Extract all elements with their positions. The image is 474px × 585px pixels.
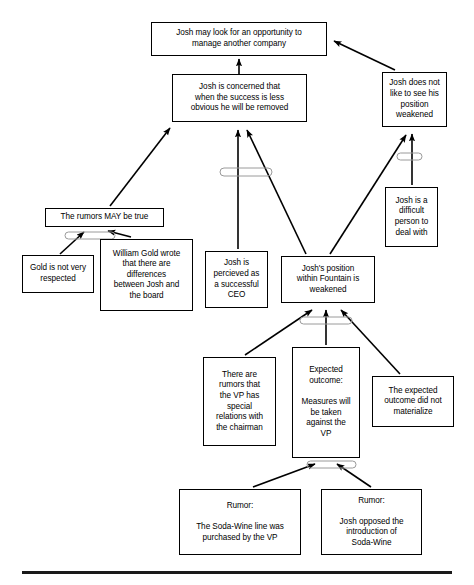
node-text: Rumor: Josh opposed the introduction of … [324,496,419,549]
node-rumor-josh-opposed[interactable]: Rumor: Josh opposed the introduction of … [321,489,422,555]
node-text: There are rumors that the VP has special… [206,370,273,434]
edge-n6-n5 [60,232,84,254]
node-text: The expected outcome did not materialize [375,386,451,418]
node-text: William Gold wrote that there are differ… [103,249,190,302]
and-connector-measures [307,461,356,468]
edge-n13-n11 [253,464,315,487]
node-vp-rumors-chairman[interactable]: There are rumors that the VP has special… [203,357,276,446]
node-text: Rumor: The Soda-Wine line was purchased … [182,501,298,543]
node-josh-does-not-like[interactable]: Josh does not like to see his position w… [382,72,447,127]
edge-n7-n5 [108,231,131,237]
node-gold-not-respected[interactable]: Gold is not very respected [22,255,94,293]
node-expected-outcome-measures[interactable]: Expected outcome: Measures will be taken… [292,347,360,458]
node-josh-may-look[interactable]: Josh may look for an opportunity to mana… [151,22,327,56]
node-text: Josh does not like to see his position w… [385,78,444,120]
and-connector-dislike [397,153,422,160]
and-connector-position [300,317,352,324]
diagram-canvas: Josh may look for an opportunity to mana… [0,0,474,585]
node-william-gold-wrote[interactable]: William Gold wrote that there are differ… [100,239,193,311]
node-josh-percieved-ceo[interactable]: Josh is percieved as a successful CEO [205,251,268,308]
node-text: Josh's position within Fountain is weake… [284,264,372,296]
and-connector-rumors [65,232,115,239]
edge-n9-n2 [247,130,306,254]
node-text: The rumors MAY be true [48,212,161,223]
bottom-divider [22,571,452,574]
node-text: Expected outcome: Measures will be taken… [295,365,357,439]
node-outcome-did-not-materialize[interactable]: The expected outcome did not materialize [372,376,454,427]
node-text: Josh is percieved as a successful CEO [208,258,265,300]
node-text: Josh is a difficult person to deal with [388,196,435,238]
node-rumor-soda-wine-purchase[interactable]: Rumor: The Soda-Wine line was purchased … [179,489,301,555]
node-josh-position-weakened[interactable]: Josh's position within Fountain is weake… [281,256,375,303]
edge-n5-n2 [110,128,170,206]
node-josh-concerned[interactable]: Josh is concerned that when the success … [172,74,307,122]
node-josh-difficult-person[interactable]: Josh is a difficult person to deal with [385,187,438,247]
edge-n3-n1 [334,41,395,70]
node-rumors-may-be-true[interactable]: The rumors MAY be true [45,208,164,227]
node-text: Josh is concerned that when the success … [175,82,304,114]
node-text: Josh may look for an opportunity to mana… [154,28,324,49]
and-connector-concern [220,168,272,176]
edge-n14-n11 [337,464,371,487]
node-text: Gold is not very respected [25,263,91,284]
